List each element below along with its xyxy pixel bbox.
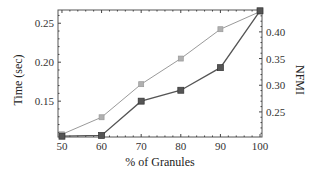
data-point-marker — [217, 65, 223, 71]
plot-frame — [58, 10, 262, 137]
data-point-marker — [218, 27, 223, 32]
x-tick-label: 50 — [56, 140, 68, 152]
y-right-tick-label: 0.30 — [266, 79, 286, 91]
data-point-marker — [178, 87, 184, 93]
x-tick-label: 80 — [175, 140, 187, 152]
data-point-marker — [59, 133, 65, 139]
x-tick-label: 100 — [252, 140, 269, 152]
x-tick-label: 90 — [215, 140, 227, 152]
plot-area — [58, 10, 262, 137]
y-axis-right-title: NFMI — [293, 65, 307, 95]
data-point-marker — [178, 56, 183, 61]
x-tick-label: 70 — [136, 140, 148, 152]
y-right-tick-label: 0.25 — [266, 106, 286, 118]
data-point-marker — [138, 98, 144, 104]
y-axis-left-title: Time (sec) — [11, 54, 25, 105]
x-tick-label: 60 — [96, 140, 108, 152]
y-left-tick-label: 0.25 — [35, 17, 55, 29]
y-right-tick-label: 0.40 — [266, 26, 286, 38]
dual-axis-line-chart: 50607080901000.150.200.250.250.300.350.4… — [0, 0, 312, 175]
data-point-marker — [99, 115, 104, 120]
y-left-tick-label: 0.20 — [35, 56, 55, 68]
y-right-tick-label: 0.35 — [266, 53, 286, 65]
y-left-tick-label: 0.15 — [35, 95, 55, 107]
data-point-marker — [99, 132, 105, 138]
data-point-marker — [139, 82, 144, 87]
data-point-marker — [257, 8, 263, 14]
x-axis-title: % of Granules — [125, 155, 195, 169]
